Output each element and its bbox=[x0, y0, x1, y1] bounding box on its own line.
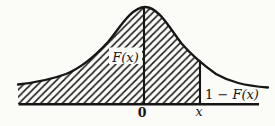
figure-normal-distribution: F(x) 1 − F(x) 0 x bbox=[0, 0, 275, 126]
shaded-area-label: F(x) bbox=[111, 50, 139, 65]
right-tail-label-fx: F(x) bbox=[231, 87, 259, 102]
right-tail-label-prefix: 1 − bbox=[205, 87, 232, 102]
bell-curve-figure: F(x) 1 − F(x) 0 x bbox=[0, 0, 275, 126]
axis-tick-x: x bbox=[195, 104, 202, 119]
right-tail-label: 1 − F(x) bbox=[205, 87, 259, 102]
axis-tick-zero: 0 bbox=[138, 105, 147, 120]
